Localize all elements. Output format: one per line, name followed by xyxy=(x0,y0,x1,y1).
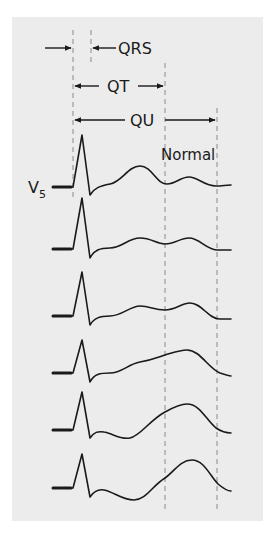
normal-label: Normal xyxy=(161,146,215,164)
qrs-label: QRS xyxy=(118,39,152,58)
qu-label: QU xyxy=(130,111,154,130)
ecg-trace-6 xyxy=(53,454,231,500)
qt-label: QT xyxy=(107,77,130,96)
lead-label: V5 xyxy=(28,178,46,201)
ecg-trace-5 xyxy=(53,392,231,438)
ecg-trace-3 xyxy=(53,272,231,325)
lead-subscript: 5 xyxy=(39,188,46,201)
ecg-trace-1 xyxy=(53,135,231,195)
ecg-trace-4 xyxy=(53,340,231,382)
ecg-diagram: QRS QT QU Normal V5 xyxy=(0,0,274,548)
ecg-trace-2 xyxy=(53,198,231,258)
